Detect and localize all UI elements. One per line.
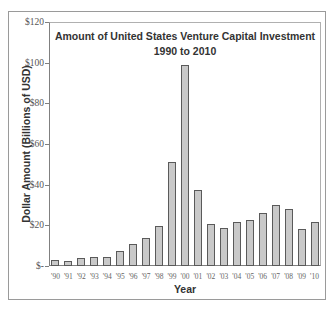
x-tick-label: '05 <box>243 272 256 281</box>
y-axis-label: Dollar Amount (Billions of USD) <box>20 65 32 223</box>
chart-title: Amount of United States Venture Capital … <box>49 29 321 59</box>
bar <box>285 209 293 266</box>
bar <box>246 220 254 266</box>
x-tick-label: '98 <box>153 272 166 281</box>
y-tick-label: $120 <box>14 17 44 27</box>
x-tick-label: '90 <box>49 272 62 281</box>
y-tick-label: $- <box>14 261 44 271</box>
x-tick-label: '04 <box>230 272 243 281</box>
bar <box>220 228 228 266</box>
bar <box>207 224 215 266</box>
y-tick-mark <box>45 225 49 226</box>
x-tick-label: '00 <box>179 272 192 281</box>
y-tick-mark <box>45 63 49 64</box>
x-tick-label: '06 <box>256 272 269 281</box>
x-tick-label: '01 <box>191 272 204 281</box>
x-tick-label: '09 <box>295 272 308 281</box>
bar <box>77 258 85 266</box>
bar <box>194 190 202 266</box>
bar <box>64 261 72 266</box>
x-tick-label: '08 <box>282 272 295 281</box>
x-tick-label: '07 <box>269 272 282 281</box>
bar <box>233 222 241 266</box>
x-tick-label: '94 <box>101 272 114 281</box>
y-tick-mark <box>45 266 49 267</box>
x-tick-label: '10 <box>308 272 321 281</box>
x-tick-label: '95 <box>114 272 127 281</box>
bar <box>155 226 163 266</box>
x-tick-label: '97 <box>140 272 153 281</box>
x-tick-label: '03 <box>217 272 230 281</box>
bar <box>90 257 98 266</box>
bar <box>142 238 150 266</box>
x-tick-label: '96 <box>127 272 140 281</box>
bar <box>298 229 306 266</box>
x-axis-label: Year <box>49 283 321 295</box>
x-tick-label: '93 <box>88 272 101 281</box>
bar <box>168 162 176 266</box>
x-tick-label: '91 <box>62 272 75 281</box>
x-tick-label: '02 <box>204 272 217 281</box>
bar <box>311 222 319 266</box>
bar <box>129 244 137 266</box>
y-tick-mark <box>45 22 49 23</box>
y-tick-mark <box>45 185 49 186</box>
chart-title-main: Amount of United States Venture Capital … <box>49 29 321 44</box>
bar <box>103 257 111 266</box>
bar <box>272 205 280 266</box>
y-tick-mark <box>45 144 49 145</box>
bar <box>51 260 59 266</box>
y-tick-mark <box>45 103 49 104</box>
x-tick-label: '92 <box>75 272 88 281</box>
chart-subtitle: 1990 to 2010 <box>49 44 321 59</box>
x-tick-label: '99 <box>166 272 179 281</box>
bar <box>181 65 189 266</box>
bar <box>116 251 124 266</box>
bar <box>259 213 267 266</box>
